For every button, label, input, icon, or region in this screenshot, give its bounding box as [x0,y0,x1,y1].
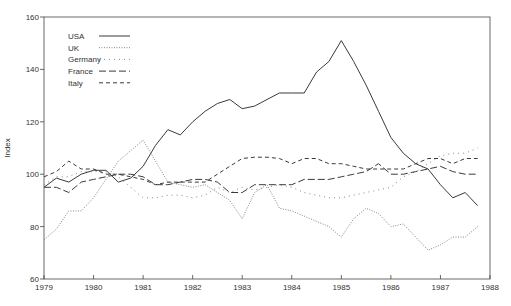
series-lines [44,41,478,251]
y-tick-label: 80 [30,223,39,232]
chart-canvas: 1979198019811982198319841985198619871988… [0,0,511,306]
x-tick-label: 1983 [233,283,251,292]
x-tick-label: 1982 [184,283,202,292]
x-tick-label: 1986 [382,283,400,292]
x-tick-label: 1979 [35,283,53,292]
series-line-uk [44,140,478,250]
legend-label-uk: UK [68,44,80,53]
legend-label-italy: Italy [68,79,83,88]
plot-frame [44,17,490,279]
y-tick-label: 120 [26,118,40,127]
y-tick-label: 60 [30,275,39,284]
y-tick-label: 100 [26,170,40,179]
line-chart: 1979198019811982198319841985198619871988… [0,0,511,306]
x-tick-label: 1985 [332,283,350,292]
x-tick-label: 1980 [85,283,103,292]
legend-label-usa: USA [68,32,85,41]
legend-label-germany: Germany [68,55,101,64]
x-tick-label: 1988 [481,283,499,292]
series-line-usa [44,41,478,206]
y-axis-label: Index [3,138,12,158]
x-tick-label: 1984 [283,283,301,292]
y-tick-label: 140 [26,65,40,74]
legend: USAUKGermanyFranceItaly [68,32,130,88]
y-tick-label: 160 [26,13,40,22]
x-tick-label: 1987 [432,283,450,292]
x-tick-label: 1981 [134,283,152,292]
legend-label-france: France [68,67,93,76]
